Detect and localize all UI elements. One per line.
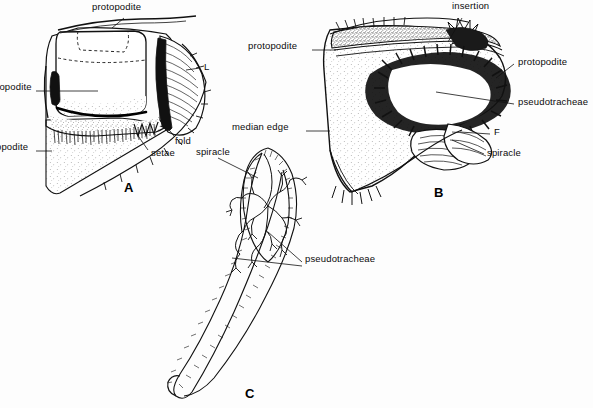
illustration-canvas [0, 0, 593, 408]
label-l-a: L [204, 62, 209, 72]
label-setae-a: setae [151, 148, 175, 158]
panel-b-artwork [306, 17, 514, 205]
label-protopodite-b-left: protopodite [248, 41, 297, 51]
panel-c-artwork [167, 148, 307, 398]
label-protopodite-b-right: protopodite [518, 57, 567, 67]
label-insertion-b: insertion [452, 1, 489, 11]
panel-letter-b: B [434, 186, 443, 199]
label-f-b: F [494, 127, 500, 137]
panel-letter-a: A [124, 181, 133, 194]
label-endopodite-a: dopodite [0, 82, 32, 92]
label-pseudotracheae-c: pseudotracheae [305, 254, 375, 264]
label-pseudotracheae-b: pseudotracheae [518, 97, 588, 107]
label-fold-a: fold [175, 136, 191, 146]
label-protopodite-a: protopodite [92, 2, 141, 12]
figure-plate: protopodite dopodite opodite L fold seta… [0, 0, 593, 408]
label-median-edge-b: median edge [232, 122, 289, 132]
panel-a-artwork [36, 16, 211, 196]
label-spiracle-b: spiracle [487, 148, 521, 158]
label-spiracle-a: spiracle [196, 147, 230, 157]
panel-letter-c: C [245, 387, 254, 400]
label-exopodite-a: opodite [0, 142, 28, 152]
